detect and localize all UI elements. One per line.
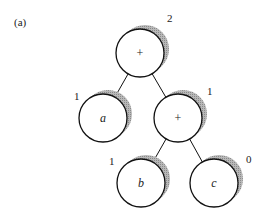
- node-count-label: 1: [207, 85, 213, 97]
- node-count-label: 0: [246, 153, 252, 165]
- tree-node-c: c0: [190, 153, 252, 207]
- node-label: b: [138, 176, 144, 190]
- node-count-label: 1: [109, 155, 115, 167]
- node-label: c: [211, 176, 217, 190]
- tree-nodes: +2a1+1b1c0: [74, 12, 252, 207]
- node-label: a: [100, 111, 106, 125]
- tree-node-b: b1: [109, 155, 170, 207]
- node-count-label: 2: [167, 12, 173, 24]
- tree-node-a: a1: [74, 90, 132, 142]
- expression-tree-diagram: +2a1+1b1c0: [0, 0, 263, 218]
- tree-node-plus2: +1: [154, 85, 213, 142]
- node-label: +: [175, 111, 182, 125]
- node-label: +: [137, 46, 144, 60]
- tree-node-root: +2: [116, 12, 173, 77]
- edge-plus2-c: [190, 139, 203, 162]
- node-count-label: 1: [74, 90, 80, 102]
- edge-root-plus2: [152, 74, 166, 98]
